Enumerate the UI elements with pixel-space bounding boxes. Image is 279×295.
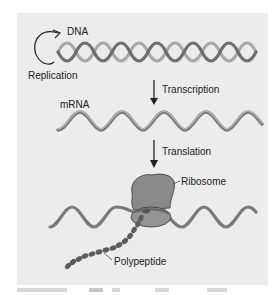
dna-helix [58, 43, 256, 61]
caption-fragment [89, 288, 103, 292]
translation-arrow [150, 140, 158, 168]
polypeptide-leader-line [104, 253, 112, 260]
caption-fragment [112, 288, 120, 292]
transcription-label: Transcription [162, 85, 219, 95]
ribosome-label: Ribosome [181, 177, 226, 187]
transcription-arrow [150, 80, 158, 105]
translation-label: Translation [162, 147, 211, 157]
dna-label: DNA [67, 27, 88, 37]
replication-loop-arrow [35, 30, 60, 64]
mrna-strand [58, 111, 262, 130]
mrna-label: mRNA [60, 100, 89, 110]
ribosome [131, 174, 174, 227]
cropped-caption [17, 288, 268, 295]
central-dogma-diagram [0, 0, 279, 295]
caption-fragment [207, 288, 227, 292]
replication-label: Replication [28, 71, 77, 81]
caption-fragment [155, 288, 169, 292]
caption-fragment [17, 288, 67, 292]
polypeptide-label: Polypeptide [114, 257, 166, 267]
